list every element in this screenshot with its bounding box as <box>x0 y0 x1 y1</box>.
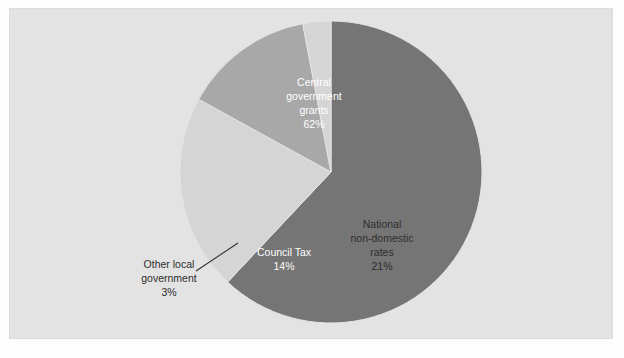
label-line: 62% <box>303 118 324 130</box>
label-line: 14% <box>273 260 294 272</box>
label-line: grants <box>299 104 328 116</box>
label-line: government <box>286 90 342 102</box>
chart-panel: Centralgovernmentgrants62%Nationalnon-do… <box>9 8 613 339</box>
label-line: Other local <box>144 258 195 270</box>
pie-chart: Centralgovernmentgrants62%Nationalnon-do… <box>9 8 613 339</box>
label-line: Central <box>297 76 331 88</box>
label-line: Council Tax <box>257 246 312 258</box>
label-line: government <box>141 272 197 284</box>
figure-canvas: Centralgovernmentgrants62%Nationalnon-do… <box>0 0 624 358</box>
label-line: rates <box>370 246 393 258</box>
label-line: non-domestic <box>350 232 413 244</box>
pie-slices-group <box>180 21 482 323</box>
label-line: 3% <box>161 286 176 298</box>
label-line: 21% <box>371 260 392 272</box>
label-line: National <box>363 218 402 230</box>
pie-callout-label: Other localgovernment3% <box>141 258 197 298</box>
pie-chart-svg: Centralgovernmentgrants62%Nationalnon-do… <box>9 8 613 339</box>
